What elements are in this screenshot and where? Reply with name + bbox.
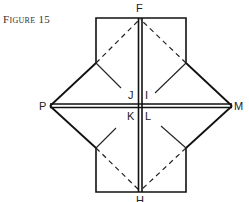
origami-fold-diagram: F P M J I K L H [0,0,249,202]
label-h: H [136,194,144,202]
label-j: J [128,89,134,101]
label-m: M [234,100,243,112]
label-f: F [136,2,143,14]
central-horizontal-line [50,104,232,108]
label-k: K [127,110,135,122]
dashed-fold-lines [96,19,186,191]
label-i: I [145,89,148,101]
central-vertical-line [139,18,143,192]
inner-flap-lines [96,63,186,148]
top-square-outline [96,18,186,63]
label-p: P [39,100,46,112]
label-l: L [145,110,151,122]
diamond-edges [50,63,232,148]
bottom-square-outline [96,148,186,192]
